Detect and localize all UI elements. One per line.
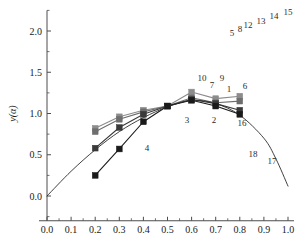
data-point-marker	[213, 103, 219, 109]
x-tick-label: 0.4	[137, 224, 150, 235]
x-tick-label: 0.3	[113, 224, 126, 235]
series-number-label: 9	[220, 73, 225, 83]
x-tick-label: 0.6	[185, 224, 198, 235]
series-number-label: 14	[270, 11, 280, 21]
series-number-label: 3	[185, 115, 190, 125]
chart-canvas: 0.00.51.01.52.0 0.00.10.20.30.40.50.60.7…	[0, 0, 307, 237]
series-number-label: 17	[268, 156, 278, 166]
series-number-label: 13	[257, 16, 267, 26]
chart-figure: 0.00.51.01.52.0 0.00.10.20.30.40.50.60.7…	[0, 0, 307, 237]
y-axis-title: y(α)	[7, 105, 19, 123]
data-point-marker	[165, 103, 171, 109]
series-number-label: 15	[284, 7, 294, 17]
series-number-label: 18	[249, 149, 259, 159]
y-tick-label: 0.5	[30, 149, 43, 160]
data-point-marker	[141, 119, 147, 125]
data-point-marker	[92, 145, 98, 151]
data-point-marker	[116, 116, 122, 122]
x-tick-label: 0.0	[41, 224, 54, 235]
chart-background	[0, 0, 307, 237]
series-number-label: 10	[198, 73, 208, 83]
x-tick-label: 0.2	[89, 224, 102, 235]
x-tick-label: 0.9	[258, 224, 271, 235]
series-number-label: 4	[145, 143, 150, 153]
data-point-marker	[189, 97, 195, 103]
data-point-marker	[237, 98, 243, 104]
data-point-marker	[141, 111, 147, 117]
data-point-marker	[116, 146, 122, 152]
x-tick-label: 0.7	[209, 224, 222, 235]
data-point-marker	[116, 125, 122, 131]
data-point-marker	[92, 172, 98, 178]
data-point-marker	[189, 89, 195, 95]
series-number-label: 8	[238, 24, 243, 34]
x-tick-label: 0.8	[234, 224, 247, 235]
series-number-label: 12	[244, 20, 253, 30]
data-point-marker	[92, 129, 98, 135]
x-tick-label: 0.5	[161, 224, 174, 235]
y-tick-label: 1.0	[30, 108, 43, 119]
series-number-label: 16	[238, 118, 248, 128]
y-tick-label: 2.0	[30, 26, 43, 37]
series-number-label: 7	[210, 80, 215, 90]
y-tick-label: 0.0	[30, 191, 43, 202]
x-tick-label: 1.0	[282, 224, 295, 235]
data-point-marker	[237, 111, 243, 117]
y-tick-label: 1.5	[30, 67, 43, 78]
series-number-label: 5	[230, 28, 235, 38]
x-tick-label: 0.1	[65, 224, 78, 235]
series-number-label: 1	[227, 84, 232, 94]
series-number-label: 6	[243, 81, 248, 91]
series-number-label: 2	[212, 115, 217, 125]
